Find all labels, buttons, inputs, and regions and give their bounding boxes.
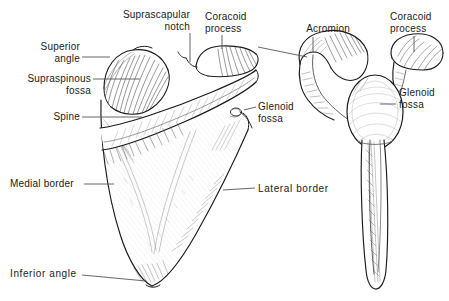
label-spine: Spine [0,111,80,123]
label-coracoid-process-lateral: Coracoid process [390,11,449,34]
label-glenoid-fossa-lateral: Glenoid fossa [399,87,449,110]
superior-border-notch-approach [178,52,186,58]
spine-lateral-end [256,70,258,82]
label-supraspinous-fossa: Supraspinous fossa [0,73,91,96]
label-superior-angle: Superior angle [0,41,80,64]
lateral-scapula-view [296,26,449,296]
anatomy-figure-scapula: Superior angle Supraspinous fossa Spine … [0,0,449,301]
leader-inferior-angle [82,275,146,281]
glenoid-fossa-lateral [347,75,403,149]
label-medial-border: Medial border [10,178,90,190]
label-acromion: Acromion [250,23,350,35]
label-inferior-angle: Inferior angle [10,268,90,280]
leader-glenoid-fossa-posterior [244,107,256,110]
suprascapular-notch-outline [186,58,197,67]
label-suprascapular-notch: Suprascapular notch [104,9,190,32]
posterior-scapula-view [95,42,265,295]
coracoid-process-shading-lateral [388,30,449,74]
label-lateral-border: Lateral border [258,183,348,195]
label-glenoid-fossa-posterior: Glenoid fossa [258,101,318,124]
leader-lateral-border [223,188,255,190]
